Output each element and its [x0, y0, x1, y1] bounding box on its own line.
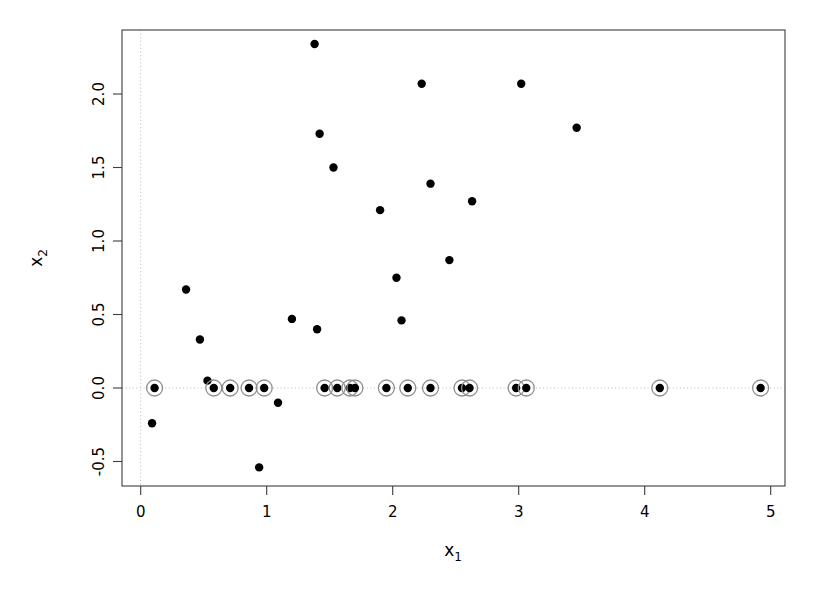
data-point	[397, 316, 405, 324]
data-point	[445, 256, 453, 264]
y-tick-label: -0.5	[90, 447, 108, 476]
data-point	[522, 384, 530, 392]
plot-frame	[122, 30, 785, 486]
data-point	[468, 197, 476, 205]
x-axis-title: x1	[444, 540, 462, 564]
x-axis-title-subscript: 1	[454, 550, 462, 564]
x-tick-label: 5	[766, 503, 776, 521]
data-point	[333, 384, 341, 392]
data-point	[426, 384, 434, 392]
y-axis-title-base: x	[26, 257, 46, 267]
data-point	[260, 384, 268, 392]
y-axis-title-subscript: 2	[36, 249, 50, 257]
y-tick-label: 0.5	[90, 303, 108, 327]
data-point	[404, 384, 412, 392]
x-axis-tick-labels: 012345	[136, 503, 776, 521]
data-point	[210, 384, 218, 392]
data-point	[376, 206, 384, 214]
y-tick-label: 2.0	[90, 82, 108, 106]
y-axis-tick-labels: -0.50.00.51.01.52.0	[90, 82, 108, 476]
y-tick-label: 0.0	[90, 376, 108, 400]
data-point	[315, 129, 323, 137]
data-point	[351, 384, 359, 392]
data-point	[255, 463, 263, 471]
svg-text:x1: x1	[444, 540, 462, 564]
data-point	[150, 384, 158, 392]
data-point	[572, 124, 580, 132]
svg-text:x2: x2	[26, 249, 50, 267]
data-point	[392, 274, 400, 282]
plot-canvas: 012345 -0.50.00.51.01.52.0 x1 x2	[0, 0, 828, 590]
data-point	[182, 285, 190, 293]
data-point	[245, 384, 253, 392]
data-point	[310, 40, 318, 48]
data-point	[274, 399, 282, 407]
data-point	[656, 384, 664, 392]
data-point	[382, 384, 390, 392]
x-tick-label: 4	[640, 503, 650, 521]
data-point	[517, 80, 525, 88]
data-point	[329, 163, 337, 171]
x-axis-ticks	[141, 486, 771, 495]
data-point	[196, 335, 204, 343]
y-tick-label: 1.5	[90, 156, 108, 180]
guide-lines	[122, 30, 785, 486]
data-point	[313, 325, 321, 333]
data-point	[417, 80, 425, 88]
data-point	[148, 419, 156, 427]
data-point	[288, 315, 296, 323]
data-point	[465, 384, 473, 392]
x-tick-label: 1	[262, 503, 272, 521]
data-point	[756, 384, 764, 392]
x-tick-label: 3	[514, 503, 524, 521]
x-axis-title-base: x	[444, 540, 454, 560]
y-tick-label: 1.0	[90, 229, 108, 253]
scatter-plot-figure: 012345 -0.50.00.51.01.52.0 x1 x2	[0, 0, 828, 590]
x-tick-label: 2	[388, 503, 398, 521]
data-point	[320, 384, 328, 392]
data-point	[426, 179, 434, 187]
y-axis-ticks	[113, 94, 122, 462]
x-tick-label: 0	[136, 503, 146, 521]
data-point	[226, 384, 234, 392]
data-points-layer	[147, 40, 769, 472]
y-axis-title: x2	[26, 249, 50, 267]
